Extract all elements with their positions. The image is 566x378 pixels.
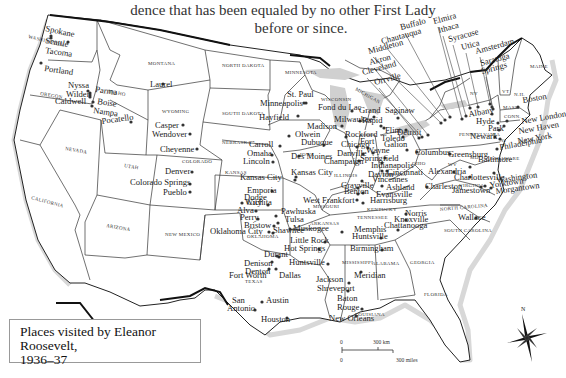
city-dot-icon <box>468 165 471 168</box>
city-label: Park <box>488 123 504 133</box>
city-dot-icon <box>355 198 358 201</box>
state-label: GEORGIA <box>410 260 435 265</box>
state-label: ALABAMA <box>372 261 399 266</box>
city-dot-icon <box>426 133 429 136</box>
city-dot-icon <box>396 116 399 119</box>
city-label: Pueblo <box>163 187 187 197</box>
state-label: VT <box>502 89 509 94</box>
scale-km-label: 300 km <box>373 339 390 345</box>
city-dot-icon <box>190 170 193 173</box>
city-label: Denver <box>165 166 190 176</box>
city-dot-icon <box>495 147 498 150</box>
city-label: Columbus <box>415 147 451 157</box>
state-label: OHIO <box>412 161 426 166</box>
city-label: Huntsville <box>352 231 388 241</box>
city-label: Chattanooga <box>384 220 428 230</box>
state-label: WYOMING <box>162 109 189 114</box>
city-label: Hayfield <box>259 112 290 122</box>
city-dot-icon <box>492 171 495 174</box>
city-label: Dubuque <box>301 137 333 147</box>
city-dot-icon <box>195 147 198 150</box>
city-dot-icon <box>188 132 191 135</box>
city-label: Baltimore <box>478 154 513 164</box>
state-label: FLORIDA <box>424 292 448 297</box>
city-dot-icon <box>516 105 519 108</box>
city-dot-icon <box>296 114 299 117</box>
city-dot-icon <box>270 260 273 263</box>
legend-title-line-1: Places visited by Eleanor Roosevelt, <box>20 325 200 353</box>
compass-north-label: N <box>521 306 526 312</box>
city-dot-icon <box>443 118 446 121</box>
city-dot-icon <box>439 121 442 124</box>
city-label: West Frankfort <box>303 195 355 205</box>
city-dot-icon <box>476 105 479 108</box>
city-dot-icon <box>491 107 494 110</box>
city-dot-icon <box>88 95 91 98</box>
state-label: MAINE <box>530 64 548 69</box>
city-dot-icon <box>275 254 278 257</box>
city-dot-icon <box>293 178 296 181</box>
city-dot-icon <box>464 114 467 117</box>
scale-bar: 0 300 km 0 300 miles <box>340 339 418 363</box>
legend-title-line-2: 1936–37 <box>20 353 200 367</box>
city-dot-icon <box>267 230 270 233</box>
city-label: Fond du Lac <box>318 102 362 112</box>
state-label: MONTANA <box>148 61 175 66</box>
state-label: SOUTH DAKOTA <box>222 111 264 116</box>
city-label: Lincoln <box>243 156 270 166</box>
city-dot-icon <box>326 262 329 265</box>
state-label: COLORADO <box>182 159 212 164</box>
city-dot-icon <box>260 300 263 303</box>
city-label: Kansas City <box>240 172 282 182</box>
city-dot-icon <box>181 123 184 126</box>
city-label: Birmingham <box>350 243 394 253</box>
city-label: Laurel <box>150 79 173 89</box>
city-dot-icon <box>49 36 52 39</box>
city-label: Dallas <box>279 270 302 280</box>
city-dot-icon <box>505 119 508 122</box>
city-label: Minneapolis <box>260 98 304 108</box>
city-dot-icon <box>271 160 274 163</box>
city-label: Wallace <box>458 212 486 222</box>
city-label: Antonio <box>227 303 255 313</box>
city-label: Jamestown <box>452 185 491 195</box>
city-label: Meridian <box>354 270 386 280</box>
city-label: Galion <box>384 139 408 149</box>
city-label: Champaign <box>324 156 364 166</box>
state-label: NORTH DAKOTA <box>222 63 265 68</box>
state-label: ILLINOIS <box>334 173 358 178</box>
city-dot-icon <box>468 106 471 109</box>
scale-mi-label: 300 miles <box>396 357 418 363</box>
city-label: Rapid <box>362 115 383 125</box>
city-label: New Orleans <box>329 313 375 323</box>
city-dot-icon <box>448 115 451 118</box>
city-dot-icon <box>460 117 463 120</box>
city-dot-icon <box>417 136 420 139</box>
city-dot-icon <box>498 137 501 140</box>
state-label: NEBRASKA <box>222 140 251 145</box>
city-label: Shawnee <box>273 225 304 235</box>
city-label: Shreveport <box>317 283 355 293</box>
city-dot-icon <box>380 184 383 187</box>
legend-box: Places visited by Eleanor Roosevelt, 193… <box>9 319 201 363</box>
city-dot-icon <box>274 267 277 270</box>
city-dot-icon <box>287 134 290 137</box>
compass-rose-icon: N <box>507 306 547 362</box>
city-dot-icon <box>340 230 343 233</box>
city-label: Rouge <box>337 302 360 312</box>
state-label: MINNESOTA <box>285 70 317 75</box>
state-label: SOUTH CAROLINA <box>444 228 492 233</box>
city-dot-icon <box>360 307 363 310</box>
city-label: Hot Springs <box>284 243 326 253</box>
city-dot-icon <box>420 135 423 138</box>
city-dot-icon <box>278 144 281 147</box>
city-dot-icon <box>274 214 277 217</box>
city-dot-icon <box>91 100 94 103</box>
state-label: NY <box>470 91 478 96</box>
city-label: Cheyenne <box>160 144 195 154</box>
city-label: Kansas City <box>291 167 333 177</box>
city-label: Grand <box>359 105 381 115</box>
city-label: Austin <box>266 295 290 305</box>
state-label: KENTUCKY <box>367 207 397 212</box>
scale-km-zero: 0 <box>340 339 343 345</box>
